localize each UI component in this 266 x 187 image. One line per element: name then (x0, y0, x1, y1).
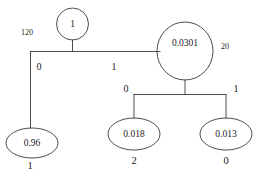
node-leaf-right-below-label: 0 (223, 155, 228, 166)
edge-label-internal-to-leaf-middle: 0 (124, 83, 129, 94)
tree-canvas: 1 120 0.0301 20 0.96 1 0.018 2 0.013 0 0… (0, 0, 266, 187)
node-leaf-left-label: 0.96 (24, 138, 41, 148)
node-leaf-left-below-label: 1 (27, 160, 32, 171)
node-leaf-middle-label: 0.018 (123, 129, 145, 139)
node-leaf-middle-below-label: 2 (131, 155, 136, 166)
node-right-internal-shape (157, 22, 213, 80)
decision-tree-diagram: 1 120 0.0301 20 0.96 1 0.018 2 0.013 0 0… (0, 0, 266, 187)
node-leaf-right-label: 0.013 (215, 129, 237, 139)
edge-label-root-to-leaf-left: 0 (37, 61, 42, 72)
node-root-label: 1 (70, 19, 75, 29)
node-right-internal-side-label: 20 (221, 42, 229, 51)
edge-label-internal-to-leaf-right: 1 (234, 83, 239, 94)
edge-label-root-to-right-internal: 1 (112, 61, 117, 72)
node-right-internal-label: 0.0301 (172, 38, 198, 48)
node-root-side-label: 120 (21, 28, 33, 37)
